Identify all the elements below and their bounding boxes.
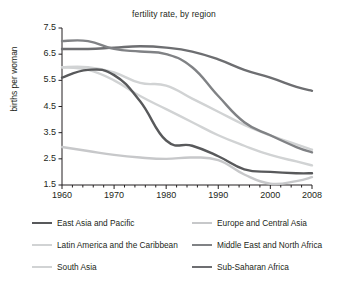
legend-item[interactable]: Europe and Central Asia <box>192 212 307 234</box>
legend-label: Latin America and the Caribbean <box>57 240 178 250</box>
legend-label: Europe and Central Asia <box>217 218 307 228</box>
series-lines <box>62 40 312 184</box>
legend-swatch-icon <box>32 222 52 225</box>
legend-label: Sub-Saharan Africa <box>217 262 289 272</box>
legend-swatch-icon <box>32 244 52 247</box>
legend-item[interactable]: Middle East and North Africa <box>192 234 322 256</box>
axis-tick-marks <box>59 28 313 189</box>
legend-label: East Asia and Pacific <box>57 218 134 228</box>
legend-item[interactable]: East Asia and Pacific <box>32 212 134 234</box>
fertility-rate-chart-figure: fertility rate, by region births per wom… <box>0 0 348 282</box>
legend-item[interactable]: South Asia <box>32 256 97 278</box>
legend-swatch-icon <box>192 266 212 269</box>
legend-label: South Asia <box>57 262 97 272</box>
legend-label: Middle East and North Africa <box>217 240 322 250</box>
chart-legend: East Asia and PacificEurope and Central … <box>0 212 348 282</box>
legend-swatch-icon <box>192 222 212 225</box>
legend-item[interactable]: Sub-Saharan Africa <box>192 256 289 278</box>
legend-item[interactable]: Latin America and the Caribbean <box>32 234 178 256</box>
legend-swatch-icon <box>32 266 52 269</box>
legend-swatch-icon <box>192 244 212 247</box>
